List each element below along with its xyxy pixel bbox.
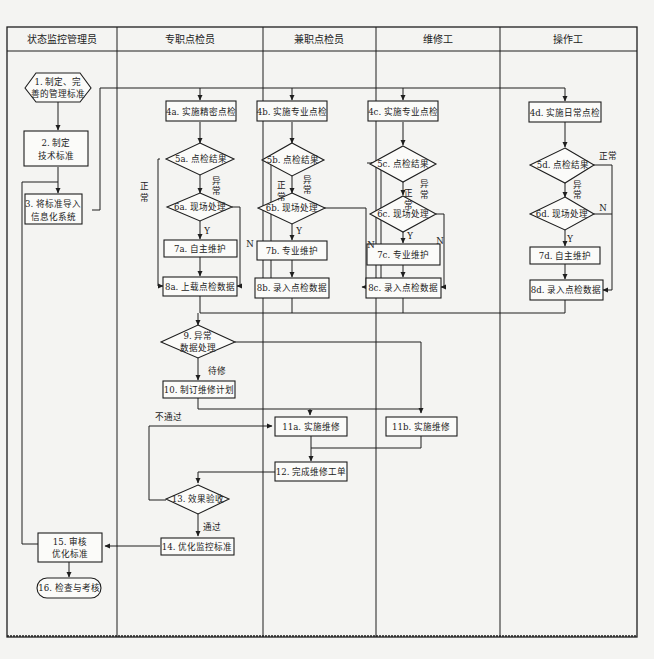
- label-abnormal-d-2: 常: [573, 189, 582, 200]
- svg-text:7b. 专业维护: 7b. 专业维护: [266, 245, 318, 256]
- svg-text:13. 效果验收: 13. 效果验收: [172, 493, 224, 504]
- svg-text:数据处理: 数据处理: [180, 342, 216, 353]
- node-7b-professional-maintenance: 7b. 专业维护: [257, 241, 327, 260]
- node-3-import-standard: 3. 将标准导入 信息化系统: [25, 194, 82, 224]
- svg-text:2. 制定: 2. 制定: [42, 137, 71, 148]
- node-11b-perform-repair: 11b. 实施维修: [386, 417, 457, 436]
- svg-text:8d. 录入点检数据: 8d. 录入点检数据: [531, 284, 601, 295]
- label-normal-b-1: 正: [277, 180, 286, 190]
- svg-text:3. 将标准导入: 3. 将标准导入: [25, 198, 81, 209]
- node-4d-daily-inspection: 4d. 实施日常点检: [529, 102, 601, 122]
- svg-text:6a. 现场处理: 6a. 现场处理: [174, 201, 226, 212]
- label-abnormal-a-1: 异: [212, 176, 221, 186]
- node-4b-professional-inspection: 4b. 实施专业点检: [257, 101, 327, 121]
- svg-text:优化标准: 优化标准: [52, 548, 88, 559]
- svg-text:善的管理标准: 善的管理标准: [31, 88, 85, 99]
- node-4a-precision-inspection: 4a. 实施精密点检: [166, 101, 236, 121]
- svg-text:15. 审核: 15. 审核: [53, 536, 87, 547]
- svg-text:4a. 实施精密点检: 4a. 实施精密点检: [166, 106, 236, 117]
- svg-text:技术标准: 技术标准: [38, 150, 74, 161]
- node-10-maintenance-plan: 10. 制订维修计划: [163, 381, 235, 398]
- svg-text:5a. 点检结果: 5a. 点检结果: [175, 153, 227, 164]
- node-6a-onsite-handling: 6a. 现场处理: [167, 193, 232, 221]
- lane-header-dedicated-inspector: 专职点检员: [165, 33, 215, 45]
- svg-text:10. 制订维修计划: 10. 制订维修计划: [164, 384, 234, 395]
- label-no-a: N: [246, 239, 254, 249]
- node-8b-enter-data: 8b. 录入点检数据: [255, 278, 329, 298]
- svg-text:信息化系统: 信息化系统: [31, 211, 76, 222]
- svg-text:4d. 实施日常点检: 4d. 实施日常点检: [530, 107, 600, 118]
- node-5d-inspection-result: 5d. 点检结果: [530, 148, 594, 183]
- node-2-technical-standard: 2. 制定 技术标准: [24, 131, 88, 166]
- svg-text:4b. 实施专业点检: 4b. 实施专业点检: [257, 106, 327, 117]
- svg-text:7a. 自主维护: 7a. 自主维护: [174, 243, 226, 254]
- label-normal-c-2: 常: [404, 199, 413, 210]
- label-abnormal-d-1: 异: [573, 180, 582, 190]
- node-12-complete-work-order: 12. 完成维修工单: [275, 462, 347, 481]
- svg-text:8b. 录入点检数据: 8b. 录入点检数据: [257, 282, 327, 293]
- lane-header-parttime-inspector: 兼职点检员: [294, 33, 344, 45]
- label-yes-a: Y: [203, 226, 210, 236]
- label-yes-c: Y: [406, 231, 413, 241]
- label-normal-a-2: 常: [140, 192, 149, 203]
- svg-text:5b. 点检结果: 5b. 点检结果: [267, 154, 319, 165]
- node-8d-enter-data: 8d. 录入点检数据: [530, 280, 603, 300]
- label-normal-d: 正常: [599, 150, 617, 161]
- label-normal-c-1: 正: [404, 188, 413, 198]
- label-no-b: N: [367, 240, 375, 250]
- label-not-passed: 不通过: [155, 411, 182, 422]
- label-normal-b-2: 常: [277, 191, 286, 202]
- label-abnormal-b-2: 常: [303, 184, 312, 195]
- lane-header-maintenance-worker: 维修工: [423, 33, 453, 45]
- node-5c-inspection-result: 5c. 点检结果: [370, 146, 436, 182]
- svg-text:7d. 自主维护: 7d. 自主维护: [539, 250, 591, 261]
- svg-text:5d. 点检结果: 5d. 点检结果: [537, 159, 589, 170]
- node-4c-professional-inspection: 4c. 实施专业点检: [368, 101, 438, 121]
- svg-text:6d. 现场处理: 6d. 现场处理: [536, 208, 588, 219]
- label-pending-repair: 待修: [208, 365, 226, 376]
- label-passed: 通过: [203, 521, 221, 532]
- node-9-abnormal-data-handling: 9. 异常 数据处理: [161, 325, 235, 358]
- svg-text:8c. 录入点检数据: 8c. 录入点检数据: [368, 282, 438, 293]
- node-5a-inspection-result: 5a. 点检结果: [166, 143, 234, 175]
- node-13-effect-acceptance: 13. 效果验收: [166, 485, 229, 514]
- label-abnormal-c-1: 异: [420, 179, 429, 189]
- node-7a-self-maintenance: 7a. 自主维护: [164, 240, 237, 257]
- svg-text:1. 制定、完: 1. 制定、完: [35, 76, 82, 87]
- label-yes-d: Y: [566, 234, 573, 244]
- node-8c-enter-data: 8c. 录入点检数据: [366, 278, 441, 298]
- label-no-d: N: [599, 203, 607, 213]
- label-abnormal-b-1: 异: [303, 175, 312, 185]
- svg-text:7c. 专业维护: 7c. 专业维护: [377, 249, 429, 260]
- node-11a-perform-repair: 11a. 实施维修: [275, 417, 347, 436]
- label-normal-a-1: 正: [140, 181, 149, 191]
- node-14-optimize-monitoring-standard: 14. 优化监控标准: [161, 538, 234, 555]
- label-no-c: N: [436, 236, 444, 246]
- svg-text:14. 优化监控标准: 14. 优化监控标准: [162, 541, 232, 552]
- svg-text:12. 完成维修工单: 12. 完成维修工单: [276, 466, 346, 477]
- node-7c-professional-maintenance: 7c. 专业维护: [367, 244, 440, 265]
- node-6d-onsite-handling: 6d. 现场处理: [530, 197, 594, 230]
- node-6b-onsite-handling: 6b. 现场处理: [258, 193, 325, 224]
- svg-text:6b. 现场处理: 6b. 现场处理: [266, 202, 318, 213]
- node-15-review-optimized-standard: 15. 审核 优化标准: [38, 533, 102, 562]
- node-8a-upload-data: 8a. 上载点检数据: [163, 277, 237, 296]
- lane-header-monitor-manager: 状态监控管理员: [27, 33, 97, 45]
- svg-text:4c. 实施专业点检: 4c. 实施专业点检: [368, 106, 438, 117]
- svg-text:9. 异常: 9. 异常: [184, 330, 213, 341]
- node-1-management-standard: 1. 制定、完 善的管理标准: [25, 73, 91, 102]
- label-yes-b: Y: [295, 226, 302, 236]
- svg-text:5c. 点检结果: 5c. 点检结果: [377, 158, 429, 169]
- svg-text:11b. 实施维修: 11b. 实施维修: [392, 421, 450, 432]
- label-abnormal-a-2: 常: [212, 185, 221, 196]
- swimlane-flowchart: 状态监控管理员 专职点检员 兼职点检员 维修工 操作工: [0, 0, 654, 659]
- label-abnormal-c-2: 常: [420, 189, 429, 200]
- svg-text:11a. 实施维修: 11a. 实施维修: [282, 421, 340, 432]
- svg-text:16. 检查与考核: 16. 检查与考核: [38, 582, 99, 593]
- lane-header-operator: 操作工: [553, 33, 583, 45]
- svg-text:8a. 上载点检数据: 8a. 上载点检数据: [165, 281, 235, 292]
- node-7d-self-maintenance: 7d. 自主维护: [530, 247, 600, 264]
- node-16-inspection-assessment: 16. 检查与考核: [37, 578, 101, 598]
